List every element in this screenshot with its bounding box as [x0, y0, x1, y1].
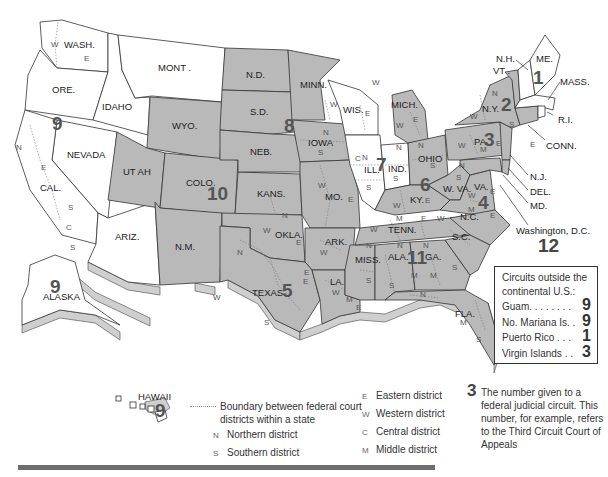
svg-text:S: S [68, 203, 73, 212]
svg-text:W: W [396, 121, 404, 130]
label-ky: KY. [410, 194, 424, 205]
label-md: MD. [530, 200, 547, 211]
svg-text:S: S [318, 148, 323, 157]
label-nevada: NEVADA [67, 149, 106, 160]
svg-text:E: E [356, 303, 361, 312]
label-utah: UT AH [123, 166, 151, 177]
circuit-4: 4 [478, 192, 489, 213]
svg-text:W: W [332, 288, 340, 297]
outside-box-title-1: Circuits outside the [502, 271, 591, 285]
svg-text:S: S [452, 263, 457, 272]
label-wash: WASH. [64, 39, 95, 50]
svg-text:S: S [476, 335, 481, 344]
svg-text:W: W [213, 293, 221, 302]
legend-boundary: Boundary between federal court districts… [220, 400, 370, 426]
outside-box-title-2: continental U.S.: [502, 285, 591, 299]
state-delaware [502, 160, 510, 175]
label-ore: ORE. [52, 84, 75, 95]
label-nm: N.M. [175, 241, 195, 252]
circuit-9-hawaii: 9 [155, 400, 166, 421]
svg-text:E: E [41, 163, 46, 172]
svg-text:E: E [496, 139, 501, 148]
svg-text:W: W [393, 201, 401, 210]
svg-text:S: S [366, 276, 371, 285]
svg-text:S: S [393, 174, 398, 183]
svg-text:N: N [397, 241, 403, 250]
label-tenn: TENN. [388, 224, 417, 235]
outside-row-virgin-islands: Virgin Islands . . 3 [502, 345, 591, 361]
state-florida [385, 290, 500, 365]
svg-text:N: N [423, 241, 429, 250]
label-sd: S.D. [250, 106, 268, 117]
svg-text:E: E [530, 140, 535, 149]
label-mo: MO. [325, 191, 343, 202]
state-michigan [392, 90, 428, 143]
label-ga: GA. [425, 251, 441, 262]
outside-row-puerto-rico: Puerto Rico . . . 1 [502, 329, 591, 345]
label-mich: MICH. [391, 99, 418, 110]
label-ark: ARK. [325, 236, 347, 247]
label-ind: IND. [388, 163, 407, 174]
legend-southern: SSouthern district [213, 446, 299, 460]
label-ariz: ARIZ. [115, 231, 139, 242]
circuit-9-alaska: 9 [50, 276, 61, 297]
legend-northern: NNorthern district [213, 428, 298, 442]
label-neb: NEB. [250, 146, 272, 157]
label-sc: S.C. [452, 231, 470, 242]
svg-text:N: N [366, 241, 372, 250]
label-mass: MASS. [560, 76, 590, 87]
svg-text:M: M [468, 205, 475, 214]
svg-text:E: E [413, 115, 418, 124]
svg-text:M: M [480, 145, 487, 154]
circuit-1: 1 [533, 67, 544, 88]
label-va: VA. [474, 181, 489, 192]
legend-circuit-number: 3 The number given to a federal judicial… [467, 386, 607, 451]
svg-text:W: W [437, 214, 445, 223]
svg-text:W: W [320, 248, 328, 257]
label-cal: CAL. [40, 182, 61, 193]
outside-continental-box: Circuits outside the continental U.S.: G… [494, 266, 598, 364]
outside-row-mariana: No. Mariana Is. . 9 [502, 314, 591, 330]
label-minn: MINN. [300, 79, 327, 90]
label-iowa: IOWA [308, 137, 334, 148]
label-ri: R.I. [558, 114, 573, 125]
svg-text:N: N [396, 143, 402, 152]
label-wis: WIS. [343, 104, 364, 115]
label-wyo: WYO. [172, 120, 197, 131]
label-texas: TEXAS [252, 287, 283, 298]
svg-text:S: S [389, 281, 394, 290]
svg-text:N: N [492, 89, 498, 98]
label-alaska: ALASKA [43, 291, 81, 302]
circuit-10: 10 [207, 183, 228, 204]
svg-text:W: W [370, 225, 378, 234]
circuit-12: 12 [538, 235, 559, 256]
svg-text:E: E [304, 268, 309, 277]
circuit-9: 9 [52, 113, 63, 134]
circuit-7: 7 [376, 154, 387, 175]
svg-text:N: N [420, 290, 426, 299]
svg-text:S: S [509, 120, 514, 129]
circuit-2: 2 [501, 94, 512, 115]
label-ny: N.Y. [482, 103, 499, 114]
svg-text:W: W [372, 78, 380, 87]
svg-text:S: S [366, 183, 371, 192]
svg-text:W: W [330, 100, 338, 109]
legend-central: CCentral district [362, 425, 440, 439]
svg-text:N: N [282, 211, 288, 220]
svg-text:N: N [16, 143, 22, 152]
svg-text:N: N [418, 141, 424, 150]
state-rhode-island [538, 106, 545, 118]
svg-text:E: E [425, 196, 430, 205]
label-la: LA. [330, 276, 344, 287]
svg-text:S: S [430, 161, 435, 170]
label-me: ME. [536, 53, 553, 64]
svg-text:C: C [66, 223, 72, 232]
label-mont: MONT . [158, 62, 191, 73]
circuit-8: 8 [284, 115, 295, 136]
svg-text:E: E [296, 238, 301, 247]
svg-text:W: W [458, 141, 466, 150]
svg-text:N: N [362, 153, 368, 162]
svg-text:E: E [84, 54, 89, 63]
dotted-line-icon [190, 406, 216, 407]
label-idaho: IDAHO [102, 101, 132, 112]
